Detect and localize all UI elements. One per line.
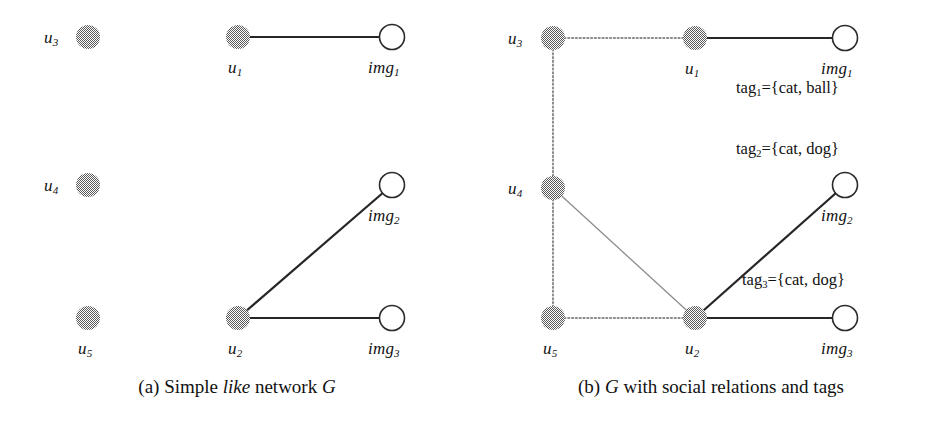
panel-b-social-relations-and-tags: u3u1img1u4img2u5u2img3 tag1={cat, ball}t… — [474, 0, 948, 435]
node-u2-user[interactable] — [683, 306, 707, 330]
tag-value-tag2: ={cat, dog} — [761, 139, 838, 158]
node-img2-image[interactable] — [833, 173, 858, 198]
tag-name-tag2: tag — [736, 139, 756, 158]
node-label-subscript-u1: 1 — [694, 67, 700, 79]
node-label-img3: img3 — [821, 339, 853, 359]
tag-subscript-tag3: 3 — [762, 279, 767, 290]
node-label-subscript-u2: 2 — [694, 347, 700, 359]
tag-subscript-tag2: 2 — [756, 148, 761, 159]
node-u4-user[interactable] — [541, 176, 565, 200]
node-label-base-u4: u — [508, 179, 517, 198]
node-label-u3: u3 — [44, 28, 58, 48]
tag-subscript-tag1: 1 — [756, 87, 761, 98]
node-label-base-img3: img — [821, 339, 847, 358]
node-label-subscript-img3: 3 — [847, 347, 853, 359]
node-label-img3: img3 — [368, 339, 400, 359]
node-u5-user[interactable] — [76, 306, 100, 330]
node-label-base-u2: u — [685, 339, 694, 358]
tag-label-tag1: tag1={cat, ball} — [736, 78, 839, 98]
node-label-img1: img1 — [368, 58, 400, 78]
caption-middle-b: with social relations and tags — [619, 376, 844, 397]
node-img1-image[interactable] — [833, 26, 858, 51]
node-label-subscript-u4: 4 — [517, 187, 523, 199]
node-label-base-img3: img — [368, 339, 394, 358]
node-u2-user[interactable] — [226, 306, 250, 330]
node-label-subscript-u5: 5 — [87, 347, 93, 359]
node-u1-user[interactable] — [226, 25, 250, 49]
node-label-img1: img1 — [821, 59, 853, 79]
panel-b-graph-canvas — [474, 0, 948, 435]
node-label-u2: u2 — [228, 339, 242, 359]
caption-prefix-a: (a) Simple — [138, 376, 222, 397]
tag-label-tag3: tag3={cat, dog} — [742, 270, 845, 290]
node-label-u2: u2 — [685, 339, 699, 359]
node-img1-image[interactable] — [380, 25, 405, 50]
node-label-u4: u4 — [44, 176, 58, 196]
node-label-subscript-img2: 2 — [394, 214, 400, 226]
tag-label-tag2: tag2={cat, dog} — [736, 139, 839, 159]
node-u3-user[interactable] — [76, 25, 100, 49]
node-label-subscript-u2: 2 — [237, 347, 243, 359]
node-label-base-u5: u — [543, 339, 552, 358]
node-u5-user[interactable] — [541, 306, 565, 330]
node-label-base-u1: u — [228, 58, 237, 77]
node-img3-image[interactable] — [833, 306, 858, 331]
node-label-u5: u5 — [543, 339, 557, 359]
node-label-base-img2: img — [821, 206, 847, 225]
node-label-u1: u1 — [685, 59, 699, 79]
node-label-subscript-img1: 1 — [847, 67, 853, 79]
node-u4-user[interactable] — [76, 173, 100, 197]
node-label-base-u1: u — [685, 59, 694, 78]
node-img3-image[interactable] — [380, 306, 405, 331]
node-label-img2: img2 — [368, 206, 400, 226]
node-label-subscript-u1: 1 — [237, 66, 243, 78]
node-u1-user[interactable] — [683, 26, 707, 50]
node-label-base-u3: u — [44, 28, 53, 47]
tag-value-tag3: ={cat, dog} — [767, 270, 844, 289]
tag-name-tag3: tag — [742, 270, 762, 289]
node-label-subscript-u5: 5 — [552, 347, 558, 359]
node-label-subscript-img3: 3 — [394, 347, 400, 359]
node-label-base-img2: img — [368, 206, 394, 225]
node-label-u1: u1 — [228, 58, 242, 78]
node-img2-image[interactable] — [380, 173, 405, 198]
node-label-subscript-u3: 3 — [517, 37, 523, 49]
tag-name-tag1: tag — [736, 78, 756, 97]
caption-middle-a: network — [250, 376, 322, 397]
tag-value-tag1: ={cat, ball} — [761, 78, 838, 97]
node-label-subscript-u3: 3 — [53, 36, 59, 48]
panel-b-caption: (b) G with social relations and tags — [474, 376, 948, 398]
node-label-base-u3: u — [508, 29, 517, 48]
node-label-img2: img2 — [821, 206, 853, 226]
caption-emphasis-2-a: G — [322, 376, 336, 397]
figure-container: u3u1img1u4img2u5u2img3 (a) Simple like n… — [0, 0, 948, 435]
node-label-subscript-img1: 1 — [394, 66, 400, 78]
node-label-subscript-img2: 2 — [847, 214, 853, 226]
panel-a-caption: (a) Simple like network G — [0, 376, 474, 398]
node-label-base-img1: img — [368, 58, 394, 77]
node-label-base-img1: img — [821, 59, 847, 78]
panel-a-simple-like-network: u3u1img1u4img2u5u2img3 (a) Simple like n… — [0, 0, 474, 435]
node-label-base-u2: u — [228, 339, 237, 358]
edge-u4-u2-social-thin — [553, 188, 695, 318]
node-label-u3: u3 — [508, 29, 522, 49]
caption-prefix-b: (b) — [578, 376, 605, 397]
node-label-subscript-u4: 4 — [53, 184, 59, 196]
node-label-u4: u4 — [508, 179, 522, 199]
node-label-base-u5: u — [78, 339, 87, 358]
edge-u2-img2-like — [238, 185, 392, 318]
node-u3-user[interactable] — [541, 26, 565, 50]
node-label-base-u4: u — [44, 176, 53, 195]
edge-u2-img2-like — [695, 185, 845, 318]
node-label-u5: u5 — [78, 339, 92, 359]
caption-emphasis-1-b: G — [605, 376, 619, 397]
caption-emphasis-1-a: like — [223, 376, 250, 397]
